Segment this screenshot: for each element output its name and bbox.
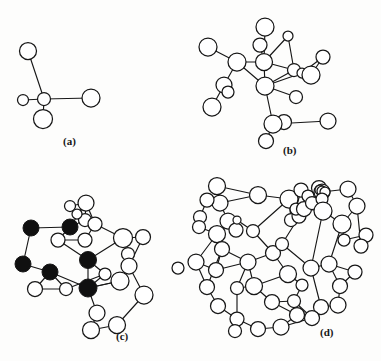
graph-node-open: [114, 229, 133, 248]
graph-node-open: [121, 258, 137, 274]
graph-node-open: [212, 195, 228, 211]
graph-node-open: [288, 295, 301, 308]
graph-node-open: [88, 217, 102, 231]
graph-node-open: [265, 295, 280, 310]
graph-node-open: [209, 226, 226, 243]
graph-node-open: [78, 233, 92, 247]
graph-node-open: [349, 198, 365, 214]
graph-node-open: [228, 53, 246, 71]
panel-label-b: (b): [283, 144, 296, 156]
graph-node-open: [333, 215, 351, 233]
graph-node-open: [283, 31, 293, 41]
graph-node-open: [316, 50, 330, 64]
graph-node-open: [215, 242, 230, 257]
graph-node-open: [348, 265, 362, 279]
panel-label-a: (a): [63, 135, 76, 147]
graph-node-filled: [79, 279, 97, 297]
graph-node-open: [89, 305, 105, 321]
graph-node-open: [246, 278, 263, 295]
graph-node-open: [251, 322, 266, 337]
graph-node-open: [82, 89, 100, 107]
graph-node-filled: [80, 252, 97, 269]
graph-node-open: [188, 254, 204, 270]
graph-node-open: [250, 187, 267, 204]
graph-node-open: [290, 91, 303, 104]
graph-node-open: [72, 209, 82, 219]
graph-node-open: [18, 95, 29, 106]
graph-node-open: [247, 225, 260, 238]
graph-node-open: [333, 279, 348, 294]
graph-node-open: [83, 322, 100, 339]
graph-node-filled: [42, 264, 58, 280]
graph-node-open: [193, 221, 206, 234]
graph-node-open: [222, 86, 234, 98]
graph-node-open: [28, 282, 43, 297]
graph-node-open: [276, 238, 289, 251]
graph-node-open: [200, 280, 215, 295]
graph-node-open: [209, 178, 226, 195]
graph-node-open: [60, 283, 73, 296]
graph-node-open: [321, 256, 337, 272]
graph-node-open: [199, 38, 217, 56]
graph-node-open: [280, 266, 297, 283]
graph-node-open: [296, 279, 308, 291]
graph-node-open: [340, 181, 356, 197]
graph-node-open: [211, 299, 226, 314]
graph-node-open: [111, 272, 129, 290]
graph-node-open: [229, 223, 243, 237]
graph-node-open: [230, 312, 244, 326]
graph-node-open: [256, 54, 273, 71]
nodes-layer: [15, 18, 373, 339]
panel-label-c: (c): [116, 330, 128, 342]
graph-node-filled: [23, 220, 39, 236]
graph-node-open: [231, 282, 244, 295]
graph-node-open: [256, 18, 274, 36]
graph-node-open: [338, 234, 350, 246]
graph-node-open: [172, 262, 184, 274]
panel-label-d: (d): [320, 326, 333, 338]
cluster-graph-svg: [0, 0, 381, 361]
graph-node-open: [209, 263, 224, 278]
graph-node-open: [320, 113, 336, 129]
graph-node-open: [259, 134, 274, 149]
graph-node-open: [330, 297, 346, 313]
graph-node-open: [253, 38, 267, 52]
graph-node-open: [354, 239, 368, 253]
graph-node-filled: [15, 256, 31, 272]
graph-node-open: [229, 325, 242, 338]
graph-node-open: [135, 286, 153, 304]
graph-node-open: [240, 254, 256, 270]
graph-node-open: [136, 230, 151, 245]
graph-node-open: [256, 77, 274, 95]
graph-node-open: [99, 268, 111, 280]
graph-node-open: [38, 93, 51, 106]
graph-node-open: [20, 43, 37, 60]
graph-node-open: [290, 308, 305, 323]
graph-node-open: [305, 311, 320, 326]
graph-node-open: [233, 216, 241, 224]
figure-canvas: (a) (b) (c) (d): [0, 0, 381, 361]
graph-node-open: [78, 195, 94, 211]
graph-node-open: [314, 202, 332, 220]
graph-node-open: [264, 115, 282, 133]
graph-node-open: [200, 193, 214, 207]
graph-node-open: [51, 233, 65, 247]
graph-node-open: [203, 98, 221, 116]
graph-node-open: [303, 260, 319, 276]
graph-node-open: [273, 319, 289, 335]
graph-node-open: [302, 66, 320, 84]
graph-node-open: [34, 110, 53, 129]
graph-node-filled: [62, 219, 78, 235]
